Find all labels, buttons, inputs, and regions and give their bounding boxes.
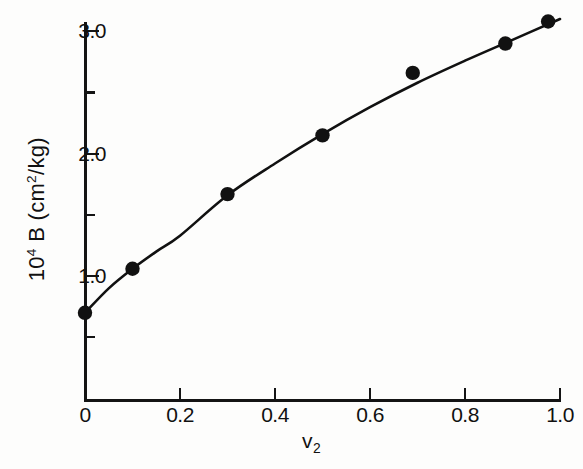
y-tick-2.5 (86, 91, 95, 93)
x-tick-0.6 (369, 388, 371, 400)
x-tick-0.2 (179, 388, 181, 400)
y-axis-title-exponent: 4 (24, 248, 39, 256)
y-axis-line (84, 22, 87, 401)
data-point (125, 262, 139, 276)
y-axis-title: 104 B (cm2/kg) (24, 94, 50, 324)
figure-canvas: 3.02.01.0 00.20.40.60.81.0 104 B (cm2/kg… (0, 0, 583, 469)
y-tick-1.5 (86, 214, 95, 216)
y-tick-label-2.0: 2.0 (58, 143, 106, 164)
y-tick-label-1.0: 1.0 (58, 265, 106, 286)
x-axis-title-subscript: 2 (313, 440, 321, 456)
y-axis-title-mid: B (cm (24, 183, 49, 248)
x-tick-1.0 (559, 388, 561, 400)
x-axis-title: v2 (0, 429, 583, 456)
x-tick-label-0.8: 0.8 (435, 404, 495, 425)
y-tick-label-3.0: 3.0 (58, 20, 106, 41)
y-axis-title-prefix: 10 (24, 256, 49, 281)
fit-curve (85, 19, 560, 313)
x-tick-label-1.0: 1.0 (530, 404, 583, 425)
data-point (406, 66, 420, 80)
y-tick-0.5 (86, 336, 95, 338)
y-axis-title-suffix: /kg) (24, 137, 49, 175)
x-axis-title-base: v (302, 429, 313, 452)
data-point (498, 36, 512, 50)
data-point-group (78, 14, 556, 320)
data-point (541, 14, 555, 28)
x-tick-0.4 (274, 388, 276, 400)
data-point (220, 187, 234, 201)
x-tick-label-0.6: 0.6 (340, 404, 400, 425)
x-tick-0.8 (464, 388, 466, 400)
x-axis-line (84, 399, 561, 402)
data-point (315, 128, 329, 142)
x-tick-label-0: 0 (55, 404, 115, 425)
x-tick-label-0.4: 0.4 (245, 404, 305, 425)
y-axis-unit-exponent: 2 (24, 175, 39, 183)
x-tick-label-0.2: 0.2 (150, 404, 210, 425)
